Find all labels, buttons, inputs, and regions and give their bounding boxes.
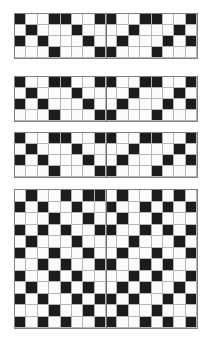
draft-cell xyxy=(106,305,117,317)
draft-cell xyxy=(140,77,151,88)
draft-cell xyxy=(117,144,128,155)
draft-cell xyxy=(49,144,60,155)
draft-cell xyxy=(152,36,163,47)
draft-cell xyxy=(83,294,94,306)
draft-cell xyxy=(163,155,174,166)
draft-cell xyxy=(72,110,83,121)
draft-cell xyxy=(106,166,117,177)
draft-cell xyxy=(26,225,37,237)
draft-cell xyxy=(186,317,197,329)
draft-cell xyxy=(49,213,60,225)
draft-cell xyxy=(38,110,49,121)
draft-cell xyxy=(95,47,106,58)
draft-cell xyxy=(15,317,26,329)
draft-cell xyxy=(15,202,26,214)
draft-cell xyxy=(129,25,140,36)
draft-cell xyxy=(140,47,151,58)
draft-cell xyxy=(15,236,26,248)
draft-cell xyxy=(95,155,106,166)
draft-cell xyxy=(72,144,83,155)
draft-cell xyxy=(26,36,37,47)
draft-cell xyxy=(15,36,26,47)
draft-cell xyxy=(140,225,151,237)
draft-cell xyxy=(49,305,60,317)
draft-cell xyxy=(152,248,163,260)
draft-cell xyxy=(152,294,163,306)
draft-cell xyxy=(174,294,185,306)
draft-cell xyxy=(95,317,106,329)
draft-cell xyxy=(72,190,83,202)
draft-cell xyxy=(186,259,197,271)
draft-cell xyxy=(38,25,49,36)
draft-grid xyxy=(15,133,197,177)
draft-cell xyxy=(49,190,60,202)
draft-cell xyxy=(129,166,140,177)
draft-cell xyxy=(152,133,163,144)
draft-cell xyxy=(49,14,60,25)
draft-cell xyxy=(152,213,163,225)
draft-cell xyxy=(152,144,163,155)
draft-cell xyxy=(186,248,197,260)
draft-cell xyxy=(38,166,49,177)
draft-cell xyxy=(140,25,151,36)
draft-cell xyxy=(117,236,128,248)
draft-cell xyxy=(95,294,106,306)
draft-cell xyxy=(38,77,49,88)
draft-cell xyxy=(117,14,128,25)
draft-cell xyxy=(140,202,151,214)
draft-cell xyxy=(117,294,128,306)
draft-cell xyxy=(49,317,60,329)
draft-cell xyxy=(140,166,151,177)
draft-cell xyxy=(38,190,49,202)
draft-cell xyxy=(83,166,94,177)
draft-cell xyxy=(95,77,106,88)
draft-cell xyxy=(140,14,151,25)
draft-cell xyxy=(95,282,106,294)
draft-cell xyxy=(186,144,197,155)
draft-cell xyxy=(26,166,37,177)
draft-cell xyxy=(95,236,106,248)
draft-cell xyxy=(186,271,197,283)
draft-cell xyxy=(152,25,163,36)
draft-cell xyxy=(186,236,197,248)
draft-cell xyxy=(186,155,197,166)
draft-cell xyxy=(106,236,117,248)
draft-cell xyxy=(26,155,37,166)
draft-cell xyxy=(83,317,94,329)
draft-cell xyxy=(38,14,49,25)
draft-cell xyxy=(95,144,106,155)
draft-cell xyxy=(49,36,60,47)
draft-cell xyxy=(83,88,94,99)
draft-cell xyxy=(117,155,128,166)
draft-cell xyxy=(83,202,94,214)
draft-cell xyxy=(61,236,72,248)
draft-cell xyxy=(129,190,140,202)
draft-cell xyxy=(49,202,60,214)
draft-cell xyxy=(152,190,163,202)
draft-cell xyxy=(129,14,140,25)
draft-cell xyxy=(106,77,117,88)
draft-cell xyxy=(49,236,60,248)
draft-cell xyxy=(83,36,94,47)
draft-cell xyxy=(129,133,140,144)
draft-cell xyxy=(95,271,106,283)
draft-cell xyxy=(163,14,174,25)
draft-cell xyxy=(61,282,72,294)
draft-cell xyxy=(72,77,83,88)
draft-cell xyxy=(26,88,37,99)
draft-cell xyxy=(152,202,163,214)
draft-cell xyxy=(72,14,83,25)
draft-cell xyxy=(83,99,94,110)
draft-cell xyxy=(72,25,83,36)
draft-cell xyxy=(152,166,163,177)
draft-cell xyxy=(72,282,83,294)
draft-cell xyxy=(174,166,185,177)
draft-cell xyxy=(106,271,117,283)
draft-cell xyxy=(106,225,117,237)
draft-cell xyxy=(26,110,37,121)
draft-cell xyxy=(49,110,60,121)
draft-cell xyxy=(38,213,49,225)
draft-cell xyxy=(174,271,185,283)
draft-cell xyxy=(38,225,49,237)
draft-cell xyxy=(140,259,151,271)
